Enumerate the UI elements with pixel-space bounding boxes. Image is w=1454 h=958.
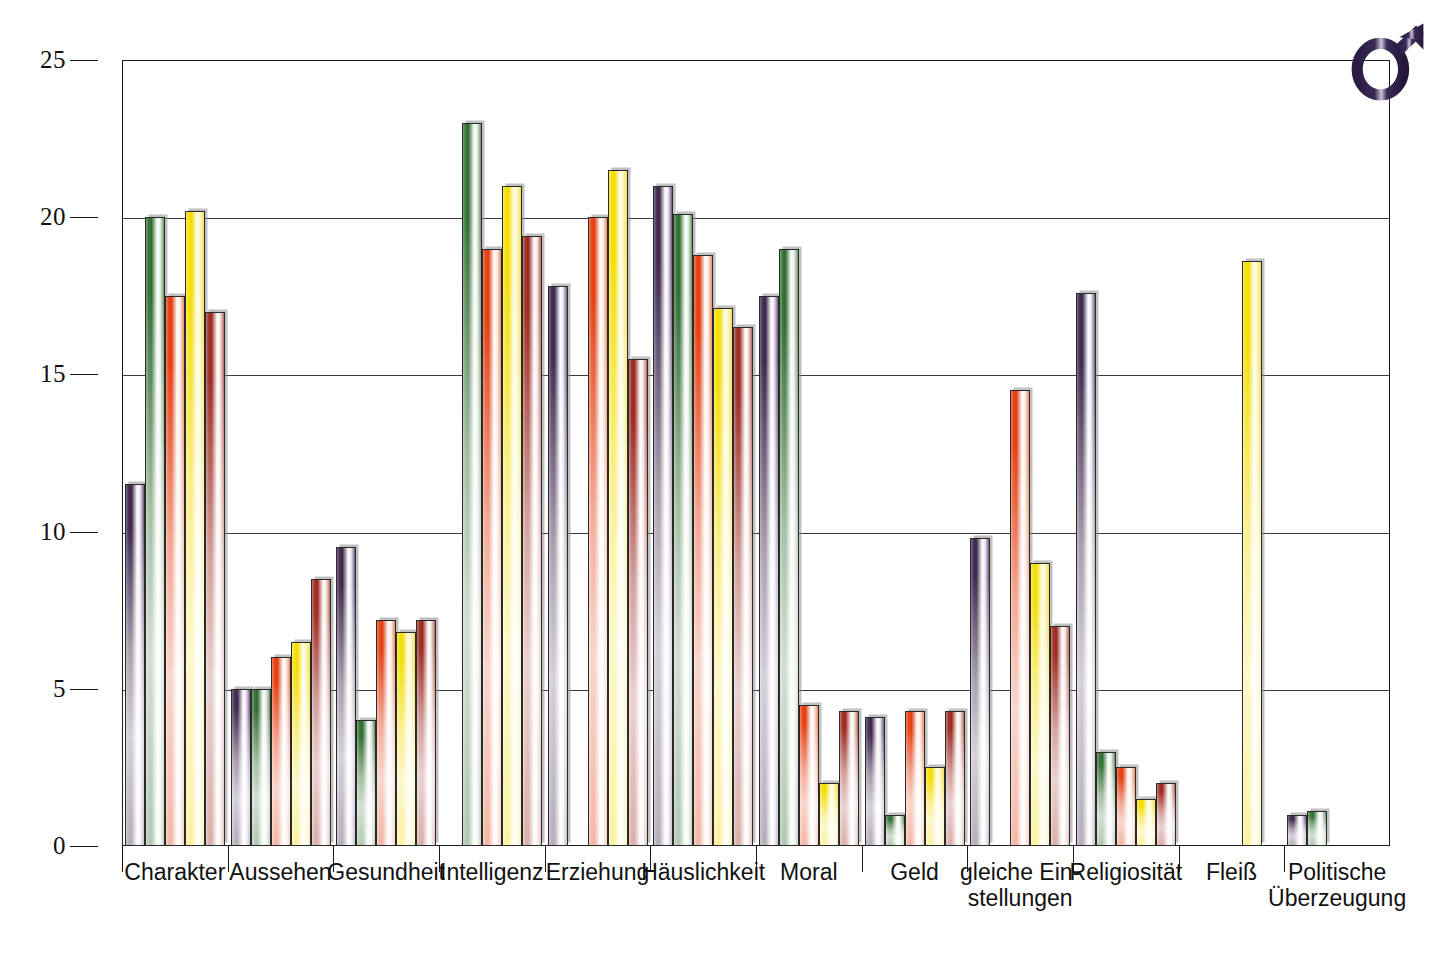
x-axis-category-label: gleiche Ein- stellungen [960, 860, 1080, 912]
x-tick-mark [122, 846, 123, 872]
x-axis-category-label: Intelligenz [440, 860, 544, 886]
x-axis-category-label: Geld [890, 860, 939, 886]
x-axis-category-label: Moral [780, 860, 838, 886]
x-axis-category-label: Fleiß [1206, 860, 1257, 886]
male-gender-symbol-icon [1346, 12, 1432, 104]
x-axis-category-label: Aussehen [229, 860, 331, 886]
x-axis-category-label: Religiosität [1070, 860, 1183, 886]
x-axis-category-label: Erziehung [546, 860, 650, 886]
x-axis: CharakterAussehenGesundheitIntelligenzEr… [0, 0, 1454, 958]
x-tick-mark [862, 846, 863, 872]
x-axis-category-label: Häuslichkeit [641, 860, 765, 886]
x-axis-category-label: Gesundheit [327, 860, 445, 886]
chart-page: 0510152025 CharakterAussehenGesundheitIn… [0, 0, 1454, 958]
x-axis-category-label: Politische Überzeugung [1268, 860, 1406, 912]
x-axis-category-label: Charakter [124, 860, 225, 886]
